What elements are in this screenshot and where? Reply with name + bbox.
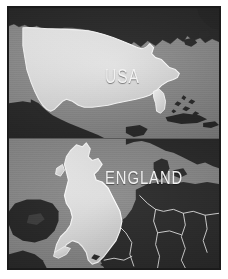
map-panel-england: ENGLAND — [9, 138, 219, 268]
panel-stack: USA — [9, 8, 219, 268]
usa-map-graphic — [9, 8, 219, 138]
england-map-graphic — [9, 139, 219, 268]
map-comparison-figure: USA — [0, 0, 228, 279]
figure-frame: USA — [7, 6, 221, 270]
map-panel-usa: USA — [9, 8, 219, 138]
